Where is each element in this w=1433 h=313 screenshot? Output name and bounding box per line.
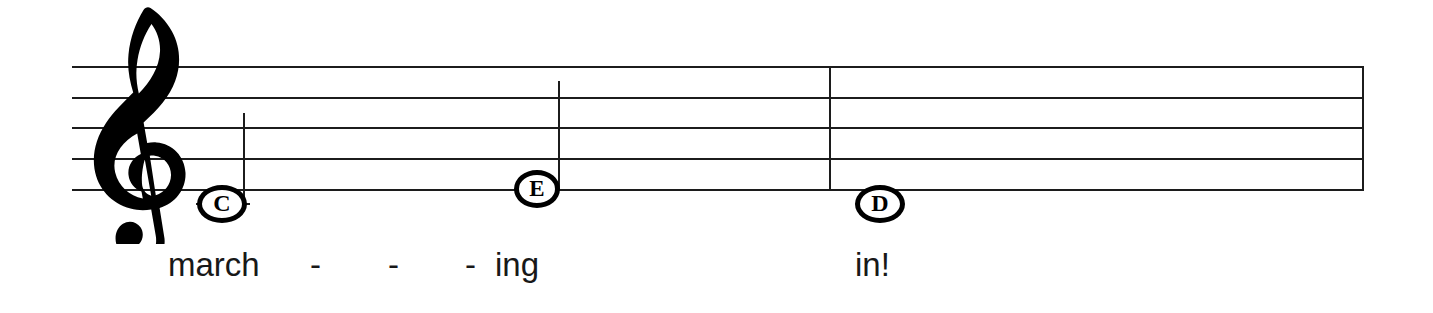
music-notation-sheet: C E D march - - - ing in! [0,0,1433,313]
treble-clef-icon [80,4,200,244]
lyric-in: in! [855,248,890,281]
measure-barline [829,66,831,191]
staff-line-2 [72,158,1363,160]
stem-note-e [558,81,560,190]
lyric-hyphen-1: - [310,248,321,281]
notehead-letter-e: E [529,177,544,200]
staff-line-5 [72,66,1363,68]
lyric-hyphen-3: - [465,248,476,281]
lyric-hyphen-2: - [388,248,399,281]
final-barline [1362,66,1364,191]
notehead-note-d[interactable]: D [855,185,905,223]
notehead-note-e[interactable]: E [514,170,560,208]
staff-line-3 [72,127,1363,129]
notehead-letter-d: D [871,191,888,215]
notehead-note-c[interactable]: C [197,185,247,223]
stem-note-c [243,113,245,205]
staff-line-4 [72,97,1363,99]
lyric-march: march [168,248,260,281]
staff-line-1 [72,189,1363,191]
notehead-letter-c: C [213,191,230,215]
lyric-ing: ing [495,248,539,281]
